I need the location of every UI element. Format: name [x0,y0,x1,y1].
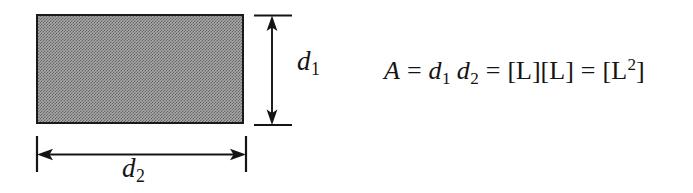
equation-dimension-letter: L [611,56,627,85]
equation-bracket-open: [ [602,56,611,85]
area-rectangle-shape [36,14,244,124]
equation-bracket-close: ] [636,56,645,85]
equation-equals-1: = [400,56,429,85]
area-equation: A=d1d2=[L][L]=[L2] [384,56,645,87]
equation-equals-3: = [574,56,603,85]
equation-term2-variable: d [457,56,470,85]
figure-canvas: d1 d2 A=d1d2=[L][L]=[L2] [0,0,693,193]
dimension-label-d2-variable: d [122,153,136,183]
dimension-label-d1-variable: d [297,46,311,76]
dimension-label-d2-subscript: 2 [136,166,145,186]
equation-equals-2: = [479,56,508,85]
arrowhead-right [230,149,246,160]
arrowhead-up [267,16,278,32]
dimension-label-d1: d1 [297,48,320,79]
equation-area-symbol: A [384,56,400,85]
arrowhead-down [267,110,278,126]
equation-dimension-product: [L][L] [507,56,573,85]
equation-term2-subscript: 2 [470,69,479,88]
dimension-label-d1-subscript: 1 [311,59,320,79]
equation-term1-variable: d [429,56,442,85]
arrowhead-left [37,149,53,160]
equation-dimension-exponent: 2 [627,55,636,74]
equation-term1-subscript: 1 [442,69,451,88]
dimension-label-d2: d2 [122,155,145,186]
vertical-dimension-d1 [254,16,292,126]
